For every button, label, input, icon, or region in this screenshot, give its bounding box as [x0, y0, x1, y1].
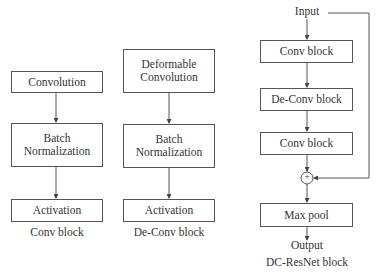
deconv-block-caption: De-Conv block [118, 226, 220, 238]
output-label: Output [282, 239, 332, 251]
conv-block-box-1: Conv block [260, 40, 353, 63]
conv-block-box-2: Conv block [260, 132, 353, 155]
convolution-box: Convolution [11, 71, 103, 93]
conv-block-caption: Conv block [11, 226, 103, 238]
batch-norm-box: Batch Normalization [123, 124, 215, 168]
add-icon: + [301, 171, 313, 181]
activation-box: Activation [11, 199, 103, 222]
dcresnet-block-caption: DC-ResNet block [252, 256, 362, 268]
batch-norm-box: Batch Normalization [11, 123, 103, 167]
input-label: Input [287, 5, 327, 17]
max-pool-box: Max pool [260, 203, 353, 227]
deconv-block-box: De-Conv block [260, 88, 353, 111]
deformable-convolution-box: Deformable Convolution [123, 49, 215, 93]
activation-box: Activation [123, 199, 215, 222]
